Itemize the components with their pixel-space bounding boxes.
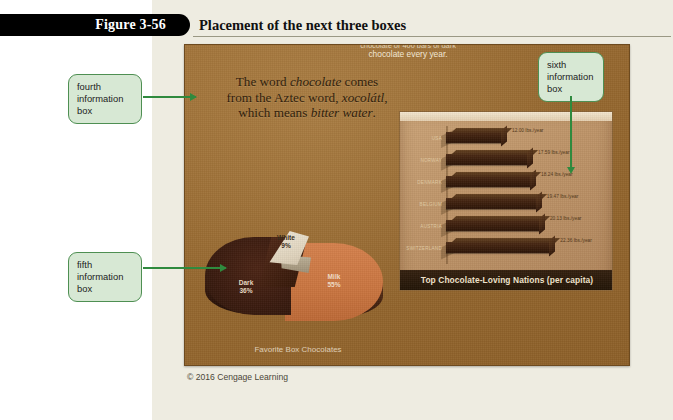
bar-end-cap bbox=[501, 125, 507, 146]
callout-sixth-information-box: sixth information box bbox=[538, 52, 604, 102]
bar-chart-row: USA12.00 lbs./year bbox=[446, 128, 502, 146]
bar-value-label: 12.00 lbs./year bbox=[512, 128, 543, 133]
bar-chart-row: DENMARK18.24 lbs./year bbox=[446, 172, 531, 190]
textbook-page: Figure 3-56 Placement of the next three … bbox=[0, 0, 673, 420]
bar-chart-row: NORWAY17.59 lbs./year bbox=[446, 150, 528, 168]
pie-chart: Dark 36% White 9% Milk 55% Favorite Box … bbox=[203, 227, 393, 359]
pie-label-milk: Milk 55% bbox=[317, 273, 351, 289]
quote-word-xocolatl: xocolátl bbox=[342, 90, 384, 105]
bar-end-cap bbox=[536, 191, 542, 212]
bar-category-label: AUSTRIA bbox=[399, 224, 442, 229]
bar-top-face bbox=[451, 172, 541, 177]
bar-value-label: 22.36 lbs./year bbox=[560, 238, 591, 243]
bar-end-cap bbox=[549, 235, 555, 256]
pie-label-milk-name: Milk bbox=[328, 273, 341, 280]
bar-chart-title: Top Chocolate-Loving Nations (per capita… bbox=[400, 270, 613, 290]
bar-body bbox=[446, 132, 502, 143]
slide-quote-text: The word chocolate comes from the Aztec … bbox=[207, 74, 407, 121]
pie-label-dark-name: Dark bbox=[239, 279, 254, 286]
bar-value-label: 19.47 lbs./year bbox=[547, 194, 578, 199]
quote-line1-c: comes bbox=[341, 74, 378, 89]
callout-fifth-information-box: fifth information box bbox=[68, 252, 142, 302]
bar-top-face bbox=[451, 194, 547, 199]
bar-category-label: SWITZERLAND bbox=[399, 246, 442, 251]
pie-label-dark: Dark 36% bbox=[229, 279, 263, 295]
bar-chart-row: BELGIUM19.47 lbs./year bbox=[446, 194, 537, 212]
bar-chart-top-shelf bbox=[400, 112, 613, 121]
quote-line2-a: from the Aztec word, bbox=[226, 90, 341, 105]
bar-category-label: BELGIUM bbox=[399, 202, 442, 207]
bar-body bbox=[446, 242, 550, 253]
pie-label-white: White 9% bbox=[269, 234, 303, 250]
bar-chart-row: AUSTRIA20.13 lbs./year bbox=[446, 216, 540, 234]
bar-top-face bbox=[451, 216, 550, 221]
bar-top-face bbox=[451, 150, 538, 155]
quote-word-chocolate: chocolate bbox=[290, 74, 341, 89]
bar-chart: USA12.00 lbs./yearNORWAY17.59 lbs./yearD… bbox=[399, 111, 613, 291]
pie-label-milk-value: 55% bbox=[327, 281, 340, 288]
quote-line1-a: The word bbox=[236, 74, 290, 89]
bar-body bbox=[446, 220, 540, 231]
quote-line3-a: which means bbox=[238, 105, 311, 120]
bar-category-label: NORWAY bbox=[399, 158, 442, 163]
pie-label-dark-value: 36% bbox=[239, 287, 252, 294]
figure-divider bbox=[193, 36, 671, 37]
callout-sixth-arrow bbox=[570, 96, 572, 168]
quote-line3-c: . bbox=[373, 105, 376, 120]
figure-number-label: Figure 3-56 bbox=[95, 17, 166, 33]
callout-fourth-information-box: fourth information box bbox=[68, 74, 142, 124]
bar-end-cap bbox=[539, 213, 545, 234]
pie-chart-title: Favorite Box Chocolates bbox=[203, 345, 393, 354]
bar-end-cap bbox=[530, 169, 536, 190]
figure-title: Placement of the next three boxes bbox=[199, 17, 406, 34]
bar-body bbox=[446, 154, 528, 165]
quote-line2-c: , bbox=[384, 90, 387, 105]
copyright-line: © 2016 Cengage Learning bbox=[187, 372, 288, 382]
bar-category-label: USA bbox=[399, 136, 442, 141]
figure-number-tab: Figure 3-56 bbox=[0, 14, 190, 36]
bar-chart-row: SWITZERLAND22.36 lbs./year bbox=[446, 238, 550, 256]
bar-top-face bbox=[451, 238, 561, 243]
pie-label-white-name: White bbox=[277, 234, 295, 241]
pie-label-white-value: 9% bbox=[281, 242, 291, 249]
bar-value-label: 17.59 lbs./year bbox=[538, 150, 569, 155]
bar-body bbox=[446, 198, 537, 209]
callout-fifth-arrow bbox=[143, 267, 226, 269]
bar-end-cap bbox=[527, 147, 533, 168]
quote-phrase-bitter-water: bitter water bbox=[311, 105, 373, 120]
callout-fourth-arrow bbox=[143, 96, 196, 98]
bar-body bbox=[446, 176, 531, 187]
bar-value-label: 20.13 lbs./year bbox=[550, 216, 581, 221]
bar-category-label: DENMARK bbox=[399, 180, 442, 185]
figure-header: Figure 3-56 Placement of the next three … bbox=[0, 14, 673, 36]
